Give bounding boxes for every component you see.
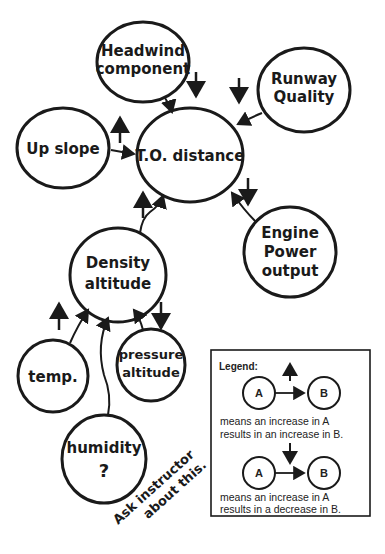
svg-text:B: B [320, 387, 328, 399]
svg-text:results in a decrease in B.: results in a decrease in B. [220, 503, 341, 515]
svg-text:Runway: Runway [271, 70, 337, 88]
node-runway-quality: Runway Quality [258, 48, 350, 132]
node-temp: temp. [18, 340, 88, 412]
svg-text:results in an increase in B.: results in an increase in B. [220, 428, 343, 440]
svg-text:Quality: Quality [274, 88, 335, 106]
svg-text:altitude: altitude [122, 365, 180, 380]
svg-text:output: output [262, 262, 319, 280]
svg-text:?: ? [99, 460, 109, 481]
svg-text:pressure: pressure [119, 347, 184, 362]
svg-text:component: component [96, 60, 191, 78]
svg-text:means an increase in A: means an increase in A [220, 491, 329, 503]
legend: Legend: A B means an increase in A resul… [211, 350, 370, 516]
svg-text:Density: Density [86, 254, 151, 272]
svg-text:B: B [320, 467, 328, 479]
node-pressure-altitude: pressure altitude [117, 329, 185, 401]
edge-temp [70, 310, 88, 343]
edge-runway [238, 113, 262, 124]
edge-engine [232, 193, 256, 222]
svg-text:T.O. distance: T.O. distance [136, 147, 245, 165]
edge-humidity [101, 318, 110, 415]
svg-text:Up slope: Up slope [26, 140, 99, 158]
svg-text:A: A [255, 387, 263, 399]
edge-upslope [111, 150, 134, 154]
svg-text:temp.: temp. [28, 368, 77, 386]
svg-text:Legend:: Legend: [219, 361, 258, 372]
node-headwind-component: Headwind component [96, 22, 191, 102]
svg-text:humidity: humidity [67, 439, 142, 457]
node-humidity: humidity ? [62, 415, 146, 503]
diagram-canvas: T.O. distance Headwind component Runway … [0, 0, 385, 554]
svg-text:Engine: Engine [261, 224, 319, 242]
node-engine-power-output: Engine Power output [244, 207, 336, 297]
node-up-slope: Up slope [17, 108, 109, 188]
svg-text:A: A [255, 467, 263, 479]
node-takeoff-distance: T.O. distance [136, 108, 245, 202]
svg-text:Power: Power [264, 243, 317, 261]
edge-headwind [165, 98, 172, 112]
svg-text:altitude: altitude [85, 275, 151, 293]
svg-text:means an increase in A: means an increase in A [220, 415, 329, 427]
svg-text:Headwind: Headwind [101, 42, 185, 60]
node-density-altitude: Density altitude [70, 228, 166, 322]
